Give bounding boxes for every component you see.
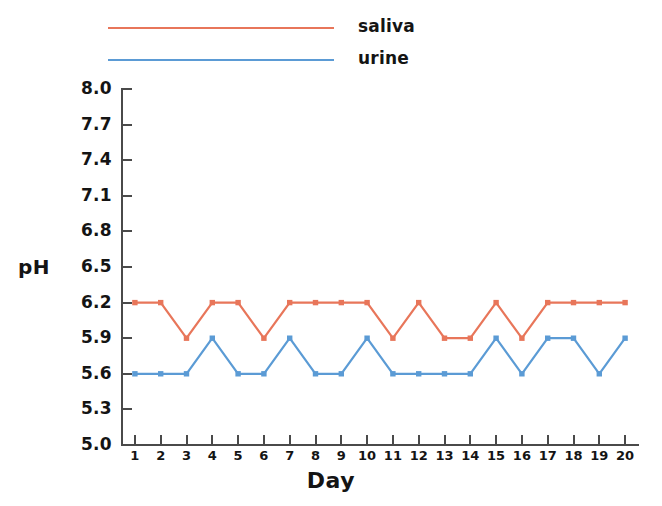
y-tick-mark	[123, 88, 132, 90]
data-point-urine	[184, 371, 189, 376]
x-tick-mark	[547, 435, 549, 444]
series-line-urine	[135, 338, 625, 374]
y-tick-label: 7.4	[56, 149, 112, 169]
data-point-urine	[261, 371, 266, 376]
y-tick-label: 7.1	[56, 185, 112, 205]
series-plot	[0, 0, 662, 506]
data-point-urine	[339, 371, 344, 376]
data-point-saliva	[158, 300, 163, 305]
data-point-saliva	[493, 300, 498, 305]
data-point-urine	[442, 371, 447, 376]
x-tick-mark	[521, 435, 523, 444]
y-tick-label: 6.5	[56, 256, 112, 276]
series-saliva	[132, 300, 628, 341]
data-point-urine	[493, 336, 498, 341]
x-tick-mark	[598, 435, 600, 444]
x-axis-title: Day	[0, 468, 662, 493]
data-point-urine	[390, 371, 395, 376]
x-tick-mark	[186, 435, 188, 444]
data-point-saliva	[468, 336, 473, 341]
y-tick-mark	[123, 230, 132, 232]
data-point-urine	[132, 371, 137, 376]
y-tick-label: 6.2	[56, 292, 112, 312]
x-tick-mark	[469, 435, 471, 444]
data-point-urine	[416, 371, 421, 376]
data-point-saliva	[390, 336, 395, 341]
data-point-urine	[158, 371, 163, 376]
x-axis-spine	[121, 444, 639, 446]
data-point-saliva	[622, 300, 627, 305]
y-tick-label-wrap: 7.4	[56, 149, 112, 169]
data-point-urine	[235, 371, 240, 376]
y-tick-mark	[123, 124, 132, 126]
data-point-saliva	[261, 336, 266, 341]
data-point-saliva	[545, 300, 550, 305]
y-tick-label: 5.3	[56, 398, 112, 418]
x-tick-mark	[573, 435, 575, 444]
data-point-saliva	[442, 336, 447, 341]
y-tick-label-wrap: 8.0	[56, 78, 112, 98]
legend-swatch-saliva	[108, 27, 334, 29]
x-tick-mark	[444, 435, 446, 444]
data-point-saliva	[597, 300, 602, 305]
data-point-saliva	[571, 300, 576, 305]
legend-item-urine: urine	[100, 48, 620, 74]
data-point-saliva	[235, 300, 240, 305]
data-point-urine	[287, 336, 292, 341]
data-point-saliva	[416, 300, 421, 305]
x-tick-mark	[495, 435, 497, 444]
y-tick-label: 5.9	[56, 327, 112, 347]
data-point-urine	[210, 336, 215, 341]
y-tick-label-wrap: 7.7	[56, 114, 112, 134]
x-tick-mark	[392, 435, 394, 444]
x-tick-mark	[263, 435, 265, 444]
data-point-saliva	[184, 336, 189, 341]
y-tick-mark	[123, 159, 132, 161]
data-point-urine	[571, 336, 576, 341]
x-tick-label: 20	[610, 448, 640, 463]
y-tick-label: 5.0	[56, 434, 112, 454]
y-tick-label-wrap: 5.0	[56, 434, 112, 454]
legend-label-urine: urine	[358, 48, 409, 68]
y-tick-mark	[123, 373, 132, 375]
y-tick-label-wrap: 7.1	[56, 185, 112, 205]
y-tick-label: 6.8	[56, 220, 112, 240]
x-tick-mark	[418, 435, 420, 444]
data-point-saliva	[132, 300, 137, 305]
series-line-saliva	[135, 303, 625, 339]
x-tick-mark	[624, 435, 626, 444]
x-tick-mark	[160, 435, 162, 444]
data-point-urine	[313, 371, 318, 376]
data-point-saliva	[519, 336, 524, 341]
y-tick-label-wrap: 5.3	[56, 398, 112, 418]
data-point-saliva	[364, 300, 369, 305]
y-tick-label: 7.7	[56, 114, 112, 134]
y-tick-label-wrap: 6.8	[56, 220, 112, 240]
y-tick-label: 5.6	[56, 363, 112, 383]
x-tick-mark	[211, 435, 213, 444]
y-tick-mark	[123, 266, 132, 268]
data-point-saliva	[287, 300, 292, 305]
y-tick-label-wrap: 5.9	[56, 327, 112, 347]
x-tick-mark	[315, 435, 317, 444]
data-point-saliva	[210, 300, 215, 305]
y-tick-label-wrap: 6.5	[56, 256, 112, 276]
ph-line-chart: saliva urine 8.07.77.47.16.86.56.25.95.6…	[0, 0, 662, 506]
x-tick-mark	[134, 435, 136, 444]
legend-item-saliva: saliva	[100, 16, 620, 42]
y-tick-mark	[123, 302, 132, 304]
y-tick-label-wrap: 5.6	[56, 363, 112, 383]
data-point-urine	[468, 371, 473, 376]
legend-swatch-urine	[108, 59, 334, 61]
y-tick-mark	[123, 408, 132, 410]
data-point-urine	[597, 371, 602, 376]
y-tick-label-wrap: 6.2	[56, 292, 112, 312]
x-tick-mark	[237, 435, 239, 444]
y-tick-mark	[123, 195, 132, 197]
x-tick-mark	[289, 435, 291, 444]
chart-legend: saliva urine	[100, 10, 620, 72]
y-tick-mark	[123, 444, 132, 446]
data-point-urine	[545, 336, 550, 341]
data-point-urine	[622, 336, 627, 341]
y-tick-mark	[123, 337, 132, 339]
